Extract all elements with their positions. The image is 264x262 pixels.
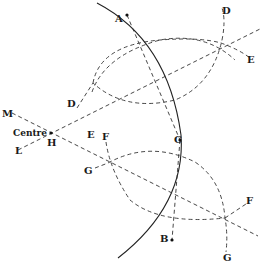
label-l: L <box>15 145 22 156</box>
chord-a-c <box>127 15 180 140</box>
label-centre: Centre <box>13 128 47 138</box>
label-f-right: F <box>246 195 253 206</box>
main-arc <box>97 3 181 258</box>
bisector-cb-ext <box>225 204 246 218</box>
geometry-diagram: A C B D E D E F G F G M L H Centre <box>0 0 264 262</box>
label-g-bottom: G <box>223 252 232 262</box>
label-e-top: E <box>247 54 255 65</box>
lower-arc-left <box>106 142 225 220</box>
label-a: A <box>114 13 123 24</box>
label-f-left: F <box>102 131 109 142</box>
label-d-left: D <box>67 98 76 109</box>
label-d-top: D <box>222 5 231 16</box>
label-g-left: G <box>84 165 93 176</box>
label-b: B <box>160 233 168 244</box>
label-h: H <box>47 137 56 148</box>
point-h <box>49 131 52 134</box>
label-m: M <box>2 108 13 119</box>
bisector-ac <box>18 28 262 150</box>
bisector-cb <box>12 113 258 236</box>
label-c: C <box>174 134 182 145</box>
label-e-left: E <box>87 129 95 140</box>
point-a <box>125 13 128 16</box>
point-b <box>170 238 173 241</box>
